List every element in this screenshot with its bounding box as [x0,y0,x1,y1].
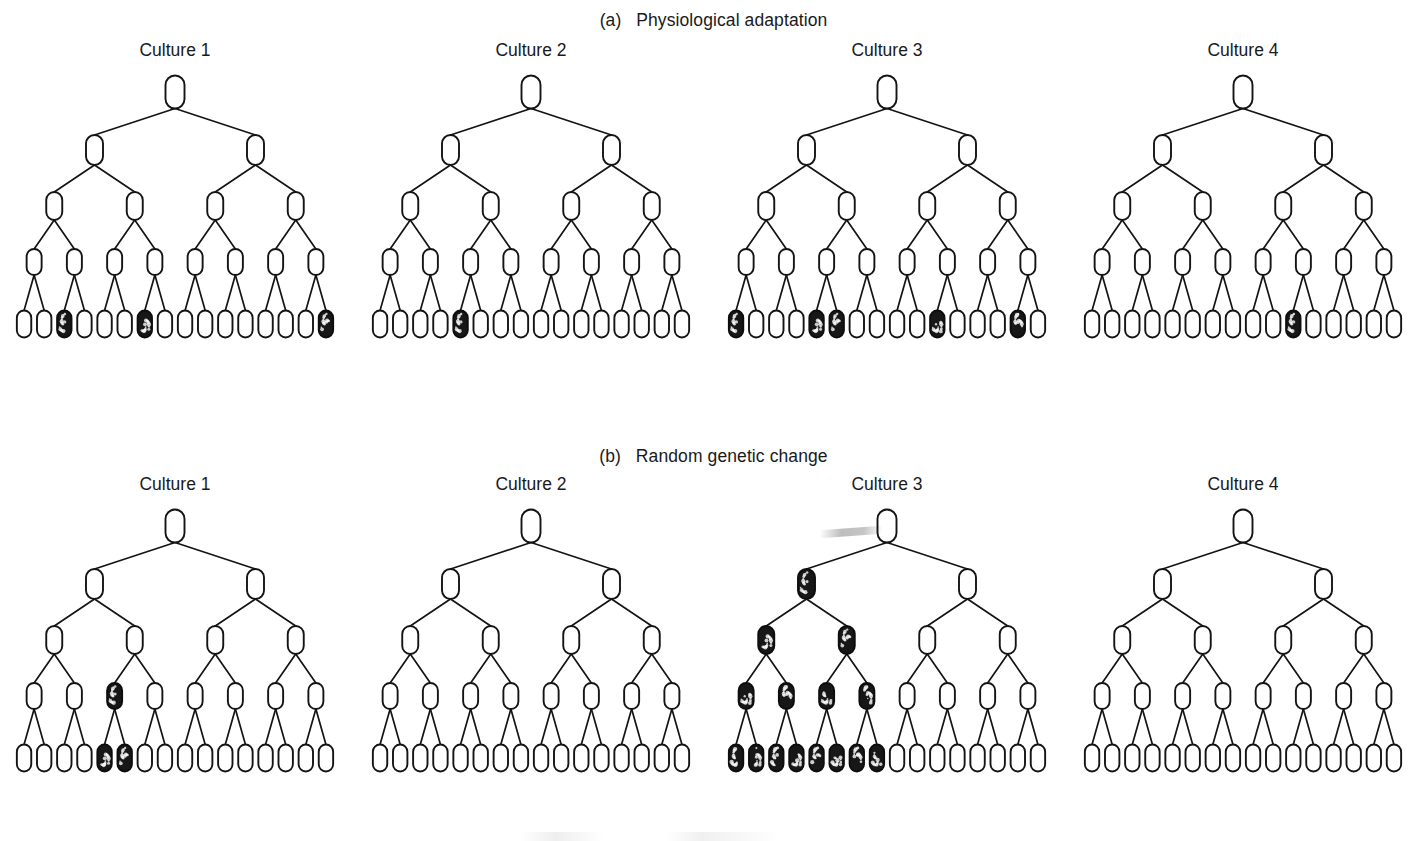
tree-canvas [356,62,706,362]
lineage-edge [155,709,165,745]
lineage-edge [215,654,235,683]
normal-cell [850,311,864,338]
normal-cell [1114,192,1130,220]
lineage-edge [1283,654,1303,683]
mutant-cell-speckle [831,327,835,331]
lineage-edge [266,709,276,745]
lineage-edge [766,165,806,192]
lineage-edge [612,599,652,626]
lineage-edge [591,709,601,745]
lineage-tree-svg [1068,62,1418,362]
mutant-cell-speckle [806,571,808,573]
mutant-cell-speckle [460,313,462,315]
mutant-cell [819,683,834,709]
lineage-edge [115,220,135,249]
normal-cell [970,311,984,338]
lineage-edge [380,275,390,311]
lineage-edge [1374,709,1384,745]
normal-cell [1135,249,1150,275]
normal-cell [990,311,1004,338]
tree-a-culture-3: Culture 3 [712,40,1062,370]
lineage-edge [947,709,957,745]
mutant-cell-speckle [818,754,821,757]
lineage-edge [776,709,786,745]
normal-cell [1085,311,1099,338]
lineage-edge [306,275,316,311]
normal-cell [299,745,313,772]
normal-cell [393,311,407,338]
normal-cell [166,510,185,543]
normal-cell [522,76,541,109]
mutant-cell-speckle [775,753,779,757]
mutant-cell-speckle [802,578,804,580]
mutant-cell-speckle [114,685,116,687]
normal-cell [383,249,398,275]
tree-a-culture-1: Culture 1 [0,40,350,370]
mutant-cell-speckle [770,760,774,764]
normal-cell [463,249,478,275]
normal-cell [514,311,528,338]
normal-cell [919,626,935,654]
mutant-cell-speckle [733,747,737,751]
normal-cell [634,311,648,338]
normal-cell [86,569,103,599]
lineage-edge [185,709,195,745]
lineage-edge [1018,709,1028,745]
normal-cell [1195,626,1211,654]
lineage-edge [1122,654,1142,683]
lineage-edge [54,654,74,683]
lineage-edge [24,709,34,745]
normal-cell [107,249,122,275]
normal-cell [67,683,82,709]
normal-cell [258,745,272,772]
normal-cell [900,249,915,275]
lineage-edge [1283,599,1323,626]
mutant-cell-speckle [849,636,852,639]
mutant-cell-speckle [821,699,822,700]
normal-cell [1185,745,1199,772]
normal-cell [147,683,162,709]
lineage-edge [105,275,115,311]
normal-cell [644,192,660,220]
normal-cell [1020,249,1035,275]
mutant-cell-speckle [773,753,775,755]
mutant-cell-speckle [325,313,327,315]
normal-cell [278,745,292,772]
lineage-edge [1384,709,1394,745]
normal-cell [413,311,427,338]
mutant-cell-speckle [800,587,802,589]
normal-cell [27,683,42,709]
lineage-edge [907,654,927,683]
normal-cell [644,626,660,654]
lineage-edge [34,709,44,745]
lineage-edge [135,220,155,249]
tree-edges [1092,109,1394,311]
normal-cell [839,192,855,220]
normal-cell [17,311,31,338]
normal-cell [178,311,192,338]
lineage-edge [471,275,481,311]
mutant-cell-speckle [119,761,123,765]
tree-edges [380,109,682,311]
lineage-edge [897,275,907,311]
lineage-edge [1263,709,1273,745]
tree-edges [736,543,1038,745]
normal-cell [402,626,418,654]
lineage-edge [215,599,255,626]
tree-cells [1085,510,1401,772]
normal-cell [1367,311,1381,338]
mutant-cell-speckle [1292,320,1295,323]
normal-cell [402,192,418,220]
normal-cell [207,626,223,654]
mutant-cell-speckle [459,320,462,323]
lineage-edge [1183,709,1193,745]
normal-cell [798,135,815,165]
normal-cell [584,683,599,709]
normal-cell [624,249,639,275]
lineage-edge [662,709,672,745]
lineage-edge [420,709,430,745]
lineage-edge [74,275,84,311]
lineage-edge [1344,275,1354,311]
lineage-edge [390,654,410,683]
mutant-cell-speckle [148,326,150,328]
